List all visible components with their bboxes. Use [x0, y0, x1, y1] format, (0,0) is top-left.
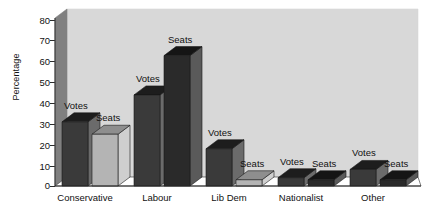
- bar-label-lib-dem-votes: Votes: [208, 128, 232, 138]
- bar-conservative-seats-side: [118, 125, 130, 186]
- bar-label-conservative-seats: Seats: [96, 113, 120, 123]
- bar-chart: Percentage 80 70 60 50 40 30 20 10 0 Vot…: [0, 0, 434, 213]
- bar-nationalist-seats-front: [308, 180, 334, 186]
- bar-lib-dem-seats-front: [236, 180, 262, 186]
- bar-labour-seats-front: [164, 56, 190, 186]
- bar-labour-seats-side: [190, 47, 202, 186]
- bar-label-nationalist-votes: Votes: [280, 157, 304, 167]
- bar-label-lib-dem-seats: Seats: [240, 159, 264, 169]
- bar-other-votes-front: [350, 169, 376, 186]
- bar-label-conservative-votes: Votes: [64, 101, 88, 111]
- bar-label-other-seats: Seats: [384, 159, 408, 169]
- bar-other-seats-front: [380, 180, 406, 186]
- bar-label-labour-seats: Seats: [168, 35, 192, 45]
- bar-lib-dem-votes-front: [206, 149, 232, 186]
- bar-conservative-votes-front: [62, 122, 88, 186]
- bar-labour-votes-front: [134, 95, 160, 186]
- bar-label-labour-votes: Votes: [136, 74, 160, 84]
- bar-label-nationalist-seats: Seats: [312, 159, 336, 169]
- bar-nationalist-votes-front: [278, 178, 304, 186]
- bar-label-other-votes: Votes: [352, 148, 376, 158]
- x-label-other: Other: [328, 193, 418, 203]
- bar-conservative-seats-front: [92, 134, 118, 186]
